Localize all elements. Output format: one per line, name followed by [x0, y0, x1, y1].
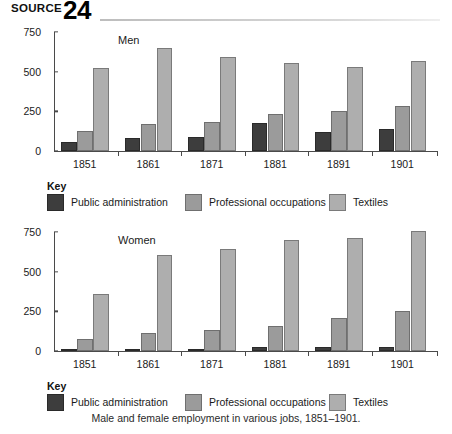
source-number: 24: [63, 0, 91, 26]
bar: [252, 123, 268, 151]
y-tick-mark: [54, 271, 58, 272]
bar: [61, 142, 77, 151]
bar: [268, 326, 284, 351]
bar: [331, 111, 347, 151]
chart-panel-women: Women Thousands 025050075018511861187118…: [0, 226, 452, 376]
legend-title: Key: [47, 380, 66, 392]
legend-swatch-icon: [329, 194, 346, 211]
bar: [93, 294, 109, 351]
x-tick-mark: [245, 351, 246, 356]
bar: [220, 249, 236, 351]
bar: [284, 63, 300, 151]
bar-group: [61, 32, 109, 151]
bar: [331, 318, 347, 351]
legend-swatch-icon: [47, 194, 64, 211]
y-tick-label: 500: [0, 66, 48, 78]
bar: [77, 339, 93, 351]
bar: [188, 137, 204, 151]
legend-item-label: Textiles: [353, 396, 388, 408]
legend-swatch-icon: [185, 194, 202, 211]
x-tick-mark: [372, 351, 373, 356]
bar-group: [61, 232, 109, 351]
bar: [204, 122, 220, 151]
legend-item-label: Public administration: [71, 196, 168, 208]
x-tick-label: 1891: [327, 158, 350, 170]
bar: [141, 333, 157, 351]
x-tick-mark: [308, 151, 309, 156]
y-tick-mark: [54, 71, 58, 72]
bar: [315, 347, 331, 351]
bar: [315, 132, 331, 151]
bar: [284, 240, 300, 351]
legend-item-label: Public administration: [71, 396, 168, 408]
x-tick-mark: [372, 151, 373, 156]
x-tick-mark: [181, 351, 182, 356]
bar: [379, 347, 395, 351]
x-tick-mark: [118, 151, 119, 156]
bar: [157, 48, 173, 151]
y-tick-label: 250: [0, 305, 48, 317]
bar: [188, 349, 204, 352]
legend-swatch-icon: [47, 394, 64, 411]
x-tick-mark: [118, 351, 119, 356]
source-label: SOURCE: [11, 2, 62, 14]
y-tick-mark: [54, 350, 58, 351]
y-tick-label: 500: [0, 266, 48, 278]
x-tick-label: 1861: [137, 158, 160, 170]
x-tick-label: 1881: [264, 358, 287, 370]
x-tick-label: 1851: [73, 358, 96, 370]
bar-group: [188, 32, 236, 151]
y-tick-mark: [54, 150, 58, 151]
x-tick-mark: [437, 151, 438, 156]
x-tick-mark: [245, 151, 246, 156]
x-tick-mark: [181, 151, 182, 156]
legend-swatch-icon: [329, 394, 346, 411]
bar: [347, 67, 363, 151]
x-tick-label: 1871: [200, 158, 223, 170]
y-tick-label: 250: [0, 105, 48, 117]
bar-group: [188, 232, 236, 351]
bar: [379, 129, 395, 151]
plot-area-men: [54, 32, 435, 151]
y-tick-label: 0: [0, 345, 48, 357]
legend-swatch-icon: [185, 394, 202, 411]
bar: [395, 106, 411, 151]
bar: [125, 349, 141, 352]
legend-item-label: Professional occupations: [209, 396, 326, 408]
bar-group: [315, 232, 363, 351]
x-tick-label: 1901: [391, 158, 414, 170]
x-tick-label: 1891: [327, 358, 350, 370]
bar-group: [125, 232, 173, 351]
bar: [395, 311, 411, 351]
bar: [411, 61, 427, 151]
source-header: SOURCE 24: [0, 0, 452, 24]
bar: [77, 131, 93, 151]
y-tick-label: 0: [0, 145, 48, 157]
bar: [204, 330, 220, 351]
y-tick-mark: [54, 231, 58, 232]
x-tick-label: 1881: [264, 158, 287, 170]
bar: [220, 57, 236, 151]
bar-group: [315, 32, 363, 151]
legend-men: Key Public administrationProfessional oc…: [0, 180, 452, 218]
bar-group: [125, 32, 173, 151]
bar: [125, 138, 141, 151]
legend-item-label: Professional occupations: [209, 196, 326, 208]
plot-area-women: [54, 232, 435, 351]
x-tick-mark: [308, 351, 309, 356]
bar-group: [252, 232, 300, 351]
bar-group: [252, 32, 300, 151]
header-divider: [100, 19, 440, 21]
x-tick-label: 1871: [200, 358, 223, 370]
bar: [347, 238, 363, 351]
bar: [61, 349, 77, 352]
figure-caption: Male and female employment in various jo…: [0, 412, 452, 424]
y-tick-mark: [54, 311, 58, 312]
bar: [157, 255, 173, 351]
y-tick-label: 750: [0, 26, 48, 38]
bar-group: [379, 32, 427, 151]
bar: [268, 114, 284, 151]
y-tick-mark: [54, 31, 58, 32]
y-tick-mark: [54, 111, 58, 112]
x-tick-mark: [437, 351, 438, 356]
